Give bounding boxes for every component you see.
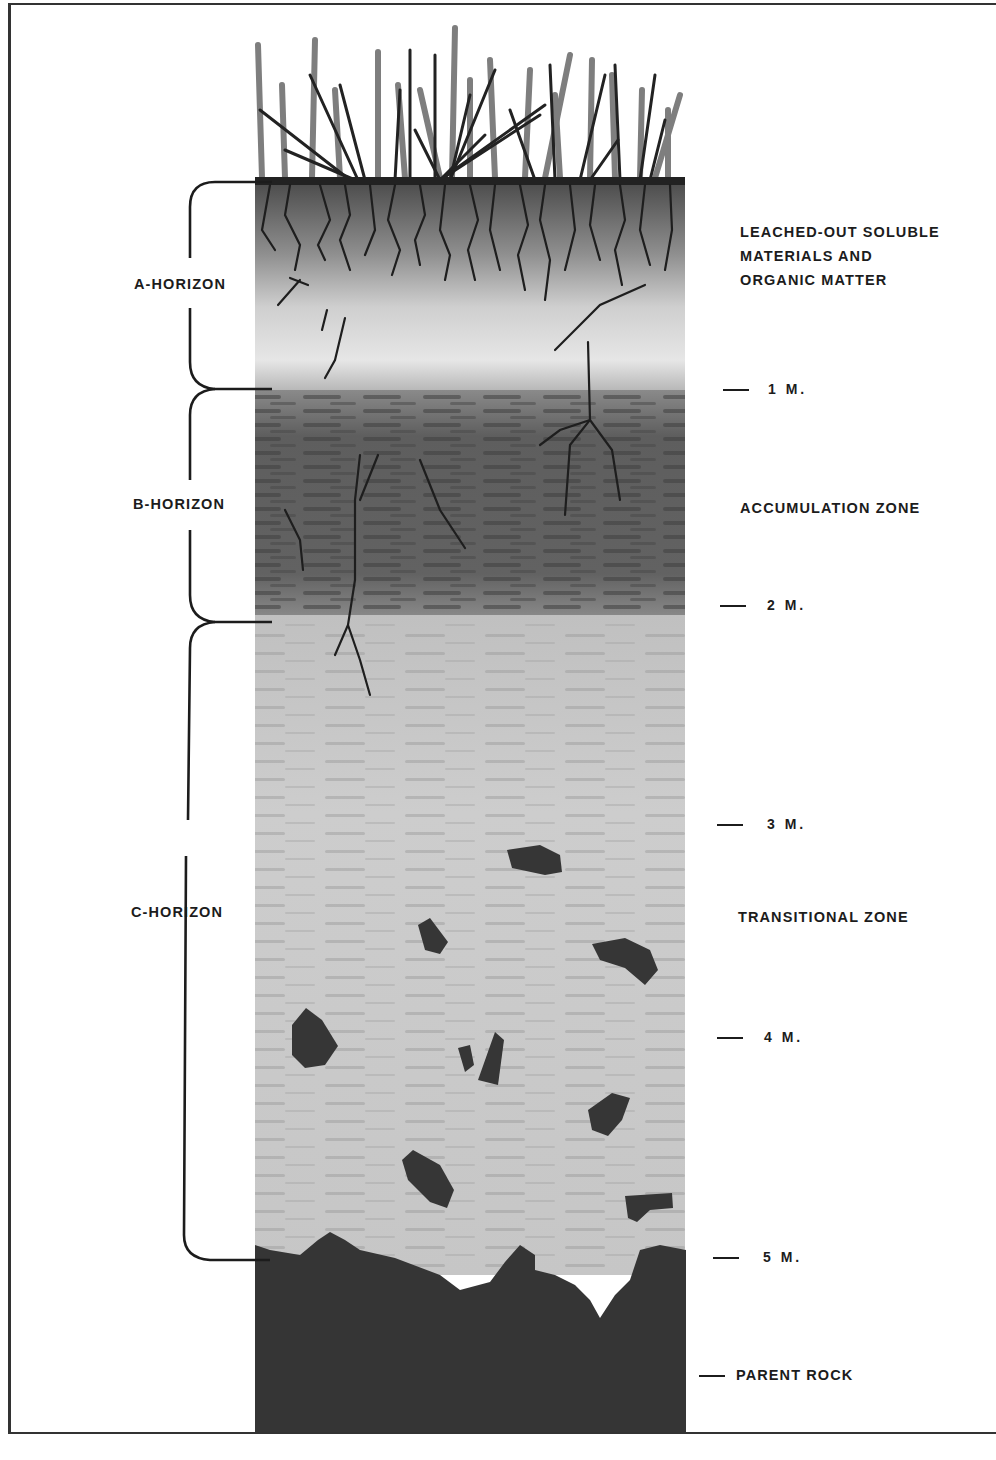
a-description-line-3: ORGANIC MATTER — [740, 268, 940, 292]
parent-rock-label: PARENT ROCK — [736, 1363, 853, 1387]
grass-blades — [255, 28, 685, 185]
a-horizon-layer — [255, 180, 685, 392]
c-horizon-label: C-HORIZON — [131, 900, 223, 924]
b-horizon-layer — [255, 390, 685, 620]
parent-rock-tick — [699, 1375, 725, 1377]
c-horizon-description: TRANSITIONAL ZONE — [738, 905, 909, 929]
depth-tick-4m — [717, 1037, 743, 1039]
depth-tick-3m — [717, 824, 743, 826]
b-horizon-description: ACCUMULATION ZONE — [740, 496, 920, 520]
depth-tick-5m — [713, 1257, 739, 1259]
a-description-line-2: MATERIALS AND — [740, 244, 940, 268]
depth-marker-1m: 1 M. — [768, 381, 807, 397]
a-horizon-label: A-HORIZON — [134, 272, 226, 296]
b-horizon-label: B-HORIZON — [133, 492, 225, 516]
depth-marker-5m: 5 M. — [763, 1249, 802, 1265]
depth-marker-2m: 2 M. — [767, 597, 806, 613]
depth-tick-2m — [720, 605, 746, 607]
depth-marker-4m: 4 M. — [764, 1029, 803, 1045]
depth-marker-3m: 3 M. — [767, 816, 806, 832]
a-description-line-1: LEACHED-OUT SOLUBLE — [740, 220, 940, 244]
depth-tick-1m — [723, 389, 749, 391]
a-horizon-description: LEACHED-OUT SOLUBLE MATERIALS AND ORGANI… — [740, 220, 940, 292]
